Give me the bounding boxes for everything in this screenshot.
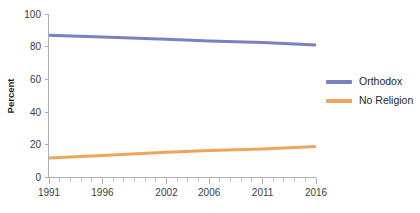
legend-label-orthodox: Orthodox — [359, 75, 402, 88]
y-tick-label: 20 — [30, 139, 42, 150]
y-tick-label: 100 — [24, 9, 41, 20]
y-axis-title: Percent — [5, 78, 16, 114]
x-tick-label: 1996 — [91, 187, 114, 198]
y-tick-marks — [45, 14, 49, 178]
y-axis-group: 020406080100 — [24, 9, 48, 184]
legend-item-no-religion[interactable]: No Religion — [326, 94, 413, 107]
x-tick-marks — [49, 178, 316, 184]
y-tick-label: 0 — [35, 172, 41, 183]
line-chart: 020406080100 199119962002200620112016 Pe… — [0, 0, 420, 213]
legend-item-orthodox[interactable]: Orthodox — [326, 75, 413, 88]
x-tick-label: 2002 — [155, 187, 178, 198]
series-lines — [49, 35, 316, 158]
y-tick-label: 40 — [30, 107, 42, 118]
series-line-orthodox — [49, 35, 316, 45]
y-tick-label: 80 — [30, 41, 42, 52]
x-tick-label: 2016 — [305, 187, 328, 198]
x-tick-labels: 199119962002200620112016 — [38, 187, 328, 198]
legend-swatch-orthodox — [326, 80, 352, 84]
y-tick-labels: 020406080100 — [24, 9, 41, 184]
x-axis-group: 199119962002200620112016 — [38, 178, 328, 199]
series-line-no-religion — [49, 146, 316, 157]
legend-swatch-no-religion — [326, 99, 352, 103]
x-tick-label: 2011 — [252, 187, 274, 198]
y-tick-label: 60 — [30, 74, 42, 85]
x-tick-label: 1991 — [38, 187, 61, 198]
x-minor-tick-marks — [49, 178, 316, 183]
legend-label-no-religion: No Religion — [359, 94, 413, 107]
x-tick-label: 2006 — [198, 187, 221, 198]
chart-legend: Orthodox No Religion — [326, 75, 413, 107]
